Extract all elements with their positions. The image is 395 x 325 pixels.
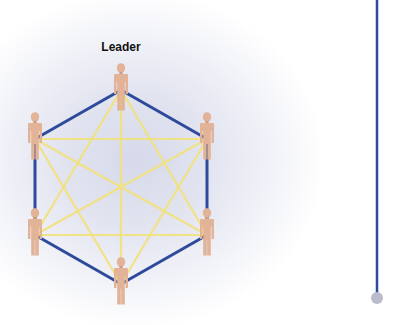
person-icon [114, 257, 128, 304]
diagram-canvas: Leader [0, 0, 395, 325]
person-icon [28, 112, 42, 159]
person-icon [114, 63, 128, 110]
person-icon [28, 208, 42, 255]
person-icon [200, 208, 214, 255]
timeline-end-dot [371, 292, 383, 304]
ring-link [35, 235, 121, 284]
ring-link [35, 90, 121, 139]
person-icon [200, 112, 214, 159]
leader-label: Leader [71, 40, 171, 54]
inner-links [35, 90, 207, 284]
network-diagram [0, 0, 395, 325]
ring-link [121, 90, 207, 139]
ring-link [121, 235, 207, 284]
timeline-line [371, 0, 383, 304]
